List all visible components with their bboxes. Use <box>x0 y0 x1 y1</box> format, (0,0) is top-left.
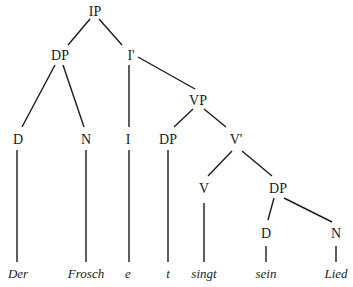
edge-ibar-vp <box>138 57 195 89</box>
node-dp-subject: DP <box>51 48 69 63</box>
node-n-object: N <box>331 226 341 241</box>
node-v: V <box>199 181 209 196</box>
edge-ip-ibar <box>99 19 122 45</box>
edge-vbar-v <box>208 151 232 176</box>
edge-vbar-dp <box>242 151 272 176</box>
node-n-subject: N <box>81 132 91 147</box>
node-v-bar: V' <box>230 132 243 147</box>
node-i: I <box>126 132 131 147</box>
leaf-e: e <box>125 266 131 281</box>
leaf-der: Der <box>7 266 29 281</box>
edge-dp-d <box>22 65 55 127</box>
node-ip: IP <box>89 4 102 19</box>
node-d-object: D <box>261 226 271 241</box>
syntax-tree: IP DP I' VP D N I DP V' V DP D N Der Fro… <box>0 0 353 287</box>
node-vp: VP <box>189 93 207 108</box>
edge-vp-vbar <box>204 109 226 127</box>
leaf-frosch: Frosch <box>67 266 104 281</box>
tree-leaves: Der Frosch e t singt sein Lied <box>7 266 348 281</box>
leaf-singt: singt <box>191 266 217 281</box>
edge-dp-n <box>63 65 84 127</box>
leaf-lied: Lied <box>323 266 348 281</box>
node-dp-trace: DP <box>159 132 177 147</box>
leaf-sein: sein <box>256 266 277 281</box>
node-dp-object: DP <box>269 181 287 196</box>
edge-vp-dp <box>174 109 193 127</box>
node-i-bar: I' <box>127 48 134 63</box>
tree-nodes: IP DP I' VP D N I DP V' V DP D N <box>13 4 341 241</box>
leaf-t: t <box>166 266 170 281</box>
edge-dp-n-obj <box>284 198 332 222</box>
edge-dp-d-obj <box>268 198 274 220</box>
node-d-subject: D <box>13 132 23 147</box>
edge-ip-dp <box>68 19 90 45</box>
